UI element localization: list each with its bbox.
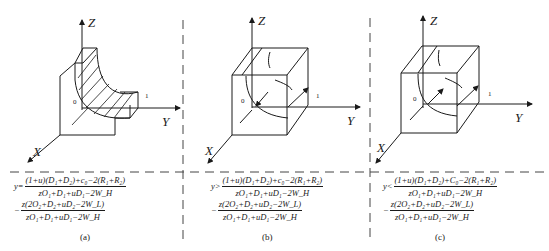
- panel-c-diagram: Z Y X 0 1: [376, 13, 532, 163]
- fraction2-prefix-b: −: [211, 206, 217, 215]
- fraction1-denominator-b: zO₁+D₁+uD₁−2W_H: [234, 187, 310, 198]
- x-axis-label-c: X: [376, 140, 386, 155]
- x-axis-label-b: X: [204, 143, 214, 158]
- origin-label-b: 0: [241, 97, 245, 105]
- curve-back-a: [97, 48, 138, 94]
- fraction2-denominator-b: zO₁+D₁+uD₁−2W_H: [222, 211, 298, 222]
- cube-front-b: [232, 75, 287, 135]
- z-axis-label-c: Z: [430, 13, 438, 28]
- relation-a: y=: [14, 182, 24, 191]
- fraction2-denominator-c: zO₁+D₁+uD₁−2W_H: [394, 211, 470, 222]
- y-axis-label-a: Y: [162, 114, 171, 129]
- caption-b: (b): [262, 232, 273, 242]
- fraction1-denominator-c: zO₁+D₁+uD₁−2W_H: [407, 187, 483, 198]
- caption-a: (a): [80, 232, 90, 242]
- origin-label-c: 0: [413, 95, 417, 103]
- panel-a-diagram: Z Y X 0 1: [28, 15, 180, 162]
- caption-c: (c): [435, 232, 445, 242]
- z-axis-label-b: Z: [258, 13, 266, 28]
- unit-label-b: 1: [316, 92, 320, 100]
- fraction1-numerator-c: (1+u)(D₁+D₂)+C₀−2(R₁+R₂): [394, 176, 498, 187]
- fraction1-numerator-a: (1+u)(D₁+D₂)+c₀−2(R₁+R₂): [25, 176, 127, 187]
- hatch-lines-a: [72, 55, 133, 125]
- formula-b: y> (1+u)(D₁+D₂)+c₀−2(R₁+R₂) zO₁+D₁+uD₁−2…: [211, 176, 323, 221]
- formula-a: y= (1+u)(D₁+D₂)+c₀−2(R₁+R₂) zO₁+D₁+uD₁−2…: [14, 176, 126, 221]
- unit-label-a: 1: [145, 92, 149, 100]
- relation-c: y<: [383, 182, 393, 191]
- fraction2-prefix-a: −: [14, 206, 20, 215]
- outward-arrow-c: [428, 89, 443, 104]
- origin-label-a: 0: [73, 98, 77, 106]
- unit-label-c: 1: [488, 90, 492, 98]
- y-axis-label-b: Y: [347, 113, 356, 128]
- y-axis-label-c: Y: [515, 110, 524, 125]
- x-axis-label-a: X: [32, 144, 42, 159]
- fraction2-numerator-c: z(2O₂+D₂+uD₂−2W_L): [390, 200, 474, 211]
- fraction1-numerator-b: (1+u)(D₁+D₂)+c₀−2(R₁+R₂): [222, 176, 324, 187]
- inward-arrow-b: [256, 92, 268, 106]
- z-axis-label-a: Z: [88, 15, 96, 30]
- fraction2-prefix-c: −: [383, 206, 389, 215]
- relation-b: y>: [211, 182, 221, 191]
- panel-b-diagram: Z Y X 0 1: [204, 13, 360, 163]
- fraction2-numerator-a: z(2O₂+D₂+uD₂−2W_L): [21, 200, 105, 211]
- formula-c: y< (1+u)(D₁+D₂)+C₀−2(R₁+R₂) zO₁+D₁+uD₁−2…: [383, 176, 497, 221]
- fraction2-numerator-b: z(2O₂+D₂+uD₂−2W_L): [218, 200, 302, 211]
- fraction2-denominator-a: zO₁+D₁+uD₁−2W_H: [25, 211, 101, 222]
- fraction1-denominator-a: zO₁+D₁+uD₁−2W_H: [37, 187, 113, 198]
